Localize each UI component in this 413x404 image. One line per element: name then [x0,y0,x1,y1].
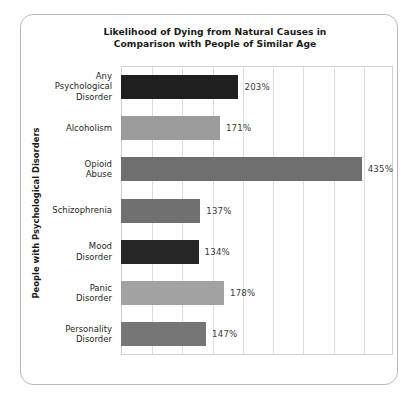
category-label-line: Disorder [25,334,112,345]
category-label-line: Panic [25,283,112,294]
bar-value-label: 171% [226,123,251,133]
bar-row: 178% [121,281,393,305]
chart-title-line-1: Likelihood of Dying from Natural Causes … [95,26,335,38]
bar [121,240,199,264]
bar-value-label: 203% [244,82,269,92]
category-label: PanicDisorder [25,283,112,304]
chart-title-line-2: Comparison with People of Similar Age [95,38,335,50]
bar-value-label: 134% [205,247,230,257]
category-label-line: Abuse [25,169,112,180]
category-label: AnyPsychologicalDisorder [25,71,112,103]
category-label: PersonalityDisorder [25,324,112,345]
bar-row: 147% [121,322,393,346]
category-label-line: Disorder [25,92,112,103]
bar-value-label: 435% [368,164,393,174]
bar-row: 203% [121,75,393,99]
bar-row: 137% [121,199,393,223]
bar-series: 203%171%435%137%134%178%147% [121,66,393,355]
category-label-line: Opioid [25,159,112,170]
bar-row: 435% [121,157,393,181]
category-label-line: Any [25,71,112,82]
bar-value-label: 178% [230,288,255,298]
category-label: Schizophrenia [25,205,112,216]
bar [121,322,206,346]
category-label-line: Disorder [25,293,112,304]
chart-title: Likelihood of Dying from Natural Causes … [95,26,335,50]
bar-row: 171% [121,116,393,140]
bar [121,199,200,223]
bar [121,75,238,99]
category-label-line: Mood [25,241,112,252]
category-label-line: Disorder [25,252,112,263]
category-label-line: Schizophrenia [25,205,112,216]
category-label: MoodDisorder [25,241,112,262]
bar [121,281,224,305]
category-label-line: Alcoholism [25,123,112,134]
category-label: OpioidAbuse [25,159,112,180]
bar [121,116,220,140]
bar [121,157,362,181]
category-axis-labels: AnyPsychologicalDisorderAlcoholismOpioid… [30,66,117,355]
category-label-line: Psychological [25,81,112,92]
bar-value-label: 137% [206,206,231,216]
bar-row: 134% [121,240,393,264]
bar-value-label: 147% [212,329,237,339]
category-label-line: Personality [25,324,112,335]
category-label: Alcoholism [25,123,112,134]
